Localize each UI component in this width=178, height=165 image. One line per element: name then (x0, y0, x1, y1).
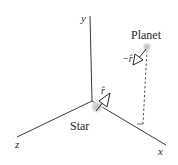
x-axis-label: x (157, 145, 163, 157)
planet-icon (143, 43, 152, 52)
star-planet-diagram: y z x Star Planet r̂ −r̂ (0, 0, 178, 165)
planet-projection-line (143, 50, 147, 124)
y-axis (90, 16, 92, 101)
neg-r-hat-label: −r̂ (122, 53, 133, 64)
neg-r-hat-arrow-icon (133, 49, 146, 65)
x-axis (92, 101, 166, 145)
star-label: Star (70, 119, 89, 133)
r-hat-label: r̂ (101, 85, 105, 96)
y-axis-label: y (80, 12, 86, 24)
z-axis-label: z (14, 138, 20, 150)
planet-label: Planet (131, 28, 162, 42)
